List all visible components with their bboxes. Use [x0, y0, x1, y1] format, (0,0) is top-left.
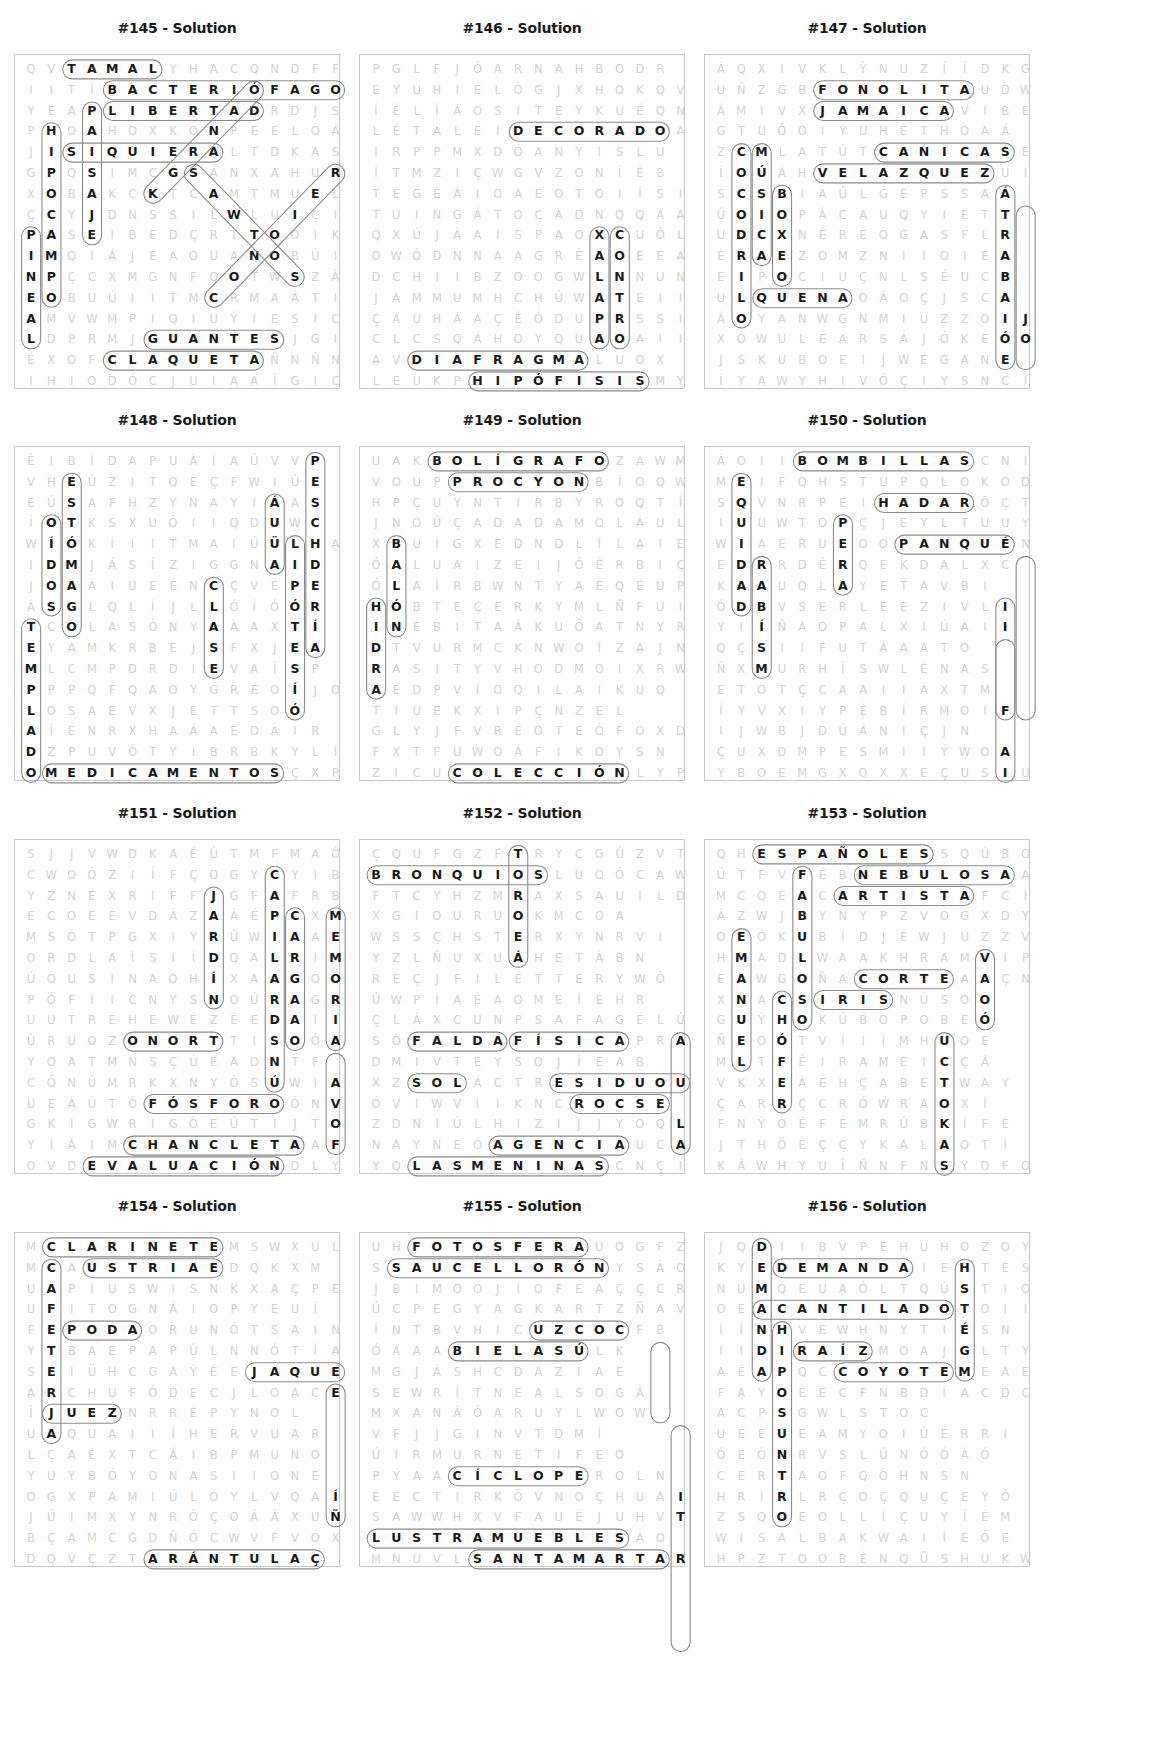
- grid-cell: A: [386, 659, 406, 679]
- grid-cell: R: [41, 1383, 61, 1403]
- grid-cell: O: [285, 225, 305, 245]
- grid-cell: Ç: [41, 1528, 61, 1548]
- grid-cell: L: [143, 1156, 163, 1176]
- grid-cell: P: [407, 1299, 427, 1319]
- grid-cell: W: [671, 659, 691, 679]
- grid-cell: A: [183, 329, 203, 349]
- grid-cell: S: [833, 1445, 853, 1465]
- grid-cell: I: [792, 701, 812, 721]
- grid-cell: Q: [914, 1279, 934, 1299]
- grid-cell: S: [772, 1403, 792, 1423]
- grid-cell: T: [731, 680, 751, 700]
- grid-cell: É: [853, 701, 873, 721]
- grid-cell: N: [813, 1299, 833, 1319]
- grid-cell: Y: [792, 1156, 812, 1176]
- grid-cell: Í: [589, 534, 609, 554]
- grid-cell: R: [163, 1507, 183, 1527]
- grid-cell: X: [873, 763, 893, 783]
- grid-cell: É: [244, 906, 264, 926]
- grid-cell: A: [549, 1010, 569, 1030]
- grid-cell: N: [285, 1466, 305, 1486]
- grid-cell: S: [62, 493, 82, 513]
- grid-cell: I: [488, 865, 508, 885]
- grid-cell: E: [326, 1383, 346, 1403]
- grid-cell: É: [204, 1362, 224, 1382]
- grid-cell: S: [955, 1279, 975, 1299]
- grid-cell: W: [772, 371, 792, 391]
- grid-cell: Ó: [224, 1320, 244, 1340]
- grid-cell: Ú: [894, 1114, 914, 1134]
- grid-cell: K: [528, 617, 548, 637]
- grid-cell: G: [224, 865, 244, 885]
- grid-cell: X: [975, 906, 995, 926]
- grid-cell: E: [143, 576, 163, 596]
- grid-cell: U: [975, 80, 995, 100]
- grid-cell: R: [305, 886, 325, 906]
- grid-cell: G: [610, 1010, 630, 1030]
- grid-cell: O: [873, 225, 893, 245]
- grid-cell: Ç: [366, 844, 386, 864]
- grid-cell: G: [610, 1383, 630, 1403]
- grid-cell: N: [244, 1341, 264, 1361]
- grid-cell: A: [792, 1299, 812, 1319]
- grid-cell: Í: [468, 680, 488, 700]
- grid-cell: M: [224, 184, 244, 204]
- grid-cell: M: [41, 763, 61, 783]
- grid-cell: L: [447, 1031, 467, 1051]
- grid-cell: A: [813, 184, 833, 204]
- grid-cell: B: [894, 1383, 914, 1403]
- grid-cell: A: [224, 451, 244, 471]
- grid-cell: B: [204, 742, 224, 762]
- grid-cell: U: [914, 865, 934, 885]
- grid-cell: I: [792, 638, 812, 658]
- grid-cell: T: [244, 267, 264, 287]
- grid-cell: W: [407, 1383, 427, 1403]
- grid-cell: R: [569, 1299, 589, 1319]
- grid-cell: C: [41, 1237, 61, 1257]
- grid-cell: U: [427, 763, 447, 783]
- grid-cell: T: [285, 1341, 305, 1361]
- grid-cell: O: [813, 350, 833, 370]
- grid-cell: U: [265, 205, 285, 225]
- grid-cell: T: [975, 205, 995, 225]
- grid-cell: X: [21, 184, 41, 204]
- grid-cell: B: [82, 1466, 102, 1486]
- grid-cell: P: [792, 844, 812, 864]
- grid-cell: I: [326, 288, 346, 308]
- grid-cell: Í: [183, 948, 203, 968]
- grid-cell: F: [265, 1528, 285, 1548]
- grid-cell: V: [224, 659, 244, 679]
- grid-cell: U: [569, 309, 589, 329]
- grid-cell: E: [934, 1424, 954, 1444]
- grid-cell: X: [711, 329, 731, 349]
- grid-cell: M: [326, 948, 346, 968]
- grid-cell: Á: [873, 288, 893, 308]
- grid-cell: Í: [610, 472, 630, 492]
- grid-cell: O: [792, 121, 812, 141]
- grid-cell: R: [102, 1237, 122, 1257]
- grid-cell: A: [569, 350, 589, 370]
- grid-cell: I: [447, 1487, 467, 1507]
- grid-cell: X: [305, 906, 325, 926]
- grid-cell: M: [528, 990, 548, 1010]
- grid-cell: I: [407, 205, 427, 225]
- grid-cell: S: [123, 1279, 143, 1299]
- grid-cell: O: [711, 927, 731, 947]
- grid-cell: W: [41, 865, 61, 885]
- grid-cell: M: [82, 1528, 102, 1548]
- grid-cell: A: [204, 163, 224, 183]
- grid-cell: G: [143, 1362, 163, 1382]
- grid-cell: Õ: [772, 121, 792, 141]
- grid-cell: N: [326, 1320, 346, 1340]
- grid-cell: Ú: [610, 844, 630, 864]
- grid-cell: I: [995, 1279, 1015, 1299]
- grid-cell: T: [833, 1299, 853, 1319]
- grid-cell: I: [914, 371, 934, 391]
- grid-cell: N: [386, 1549, 406, 1569]
- grid-cell: A: [731, 1094, 751, 1114]
- grid-cell: R: [772, 1094, 792, 1114]
- grid-cell: T: [305, 1114, 325, 1134]
- grid-cell: C: [285, 906, 305, 926]
- grid-cell: Y: [366, 1156, 386, 1176]
- grid-cell: I: [1016, 451, 1036, 471]
